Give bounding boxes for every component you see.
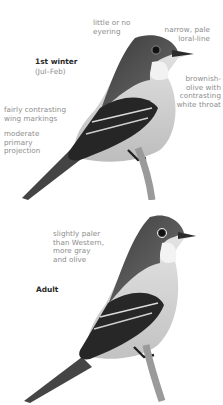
plate-title-adult: Adult <box>36 285 58 294</box>
plate-subtitle-1st-winter: (Jul–Feb) <box>35 67 66 76</box>
annotation-eyering: little or no eyering <box>93 19 131 36</box>
plate-title-1st-winter: 1st winter <box>35 57 77 66</box>
annotation-wing-markings: fairly contrasting wing markings <box>4 106 66 123</box>
annotation-adult-color: slightly paler than Western, more gray a… <box>53 230 104 264</box>
annotation-throat: brownish- olive with contrasting white t… <box>177 75 221 109</box>
bird-illustration-adult <box>0 205 223 405</box>
annotation-loral-line: narrow, pale loral-line <box>165 26 210 43</box>
annotation-primary-projection: moderate primary projection <box>4 130 40 156</box>
